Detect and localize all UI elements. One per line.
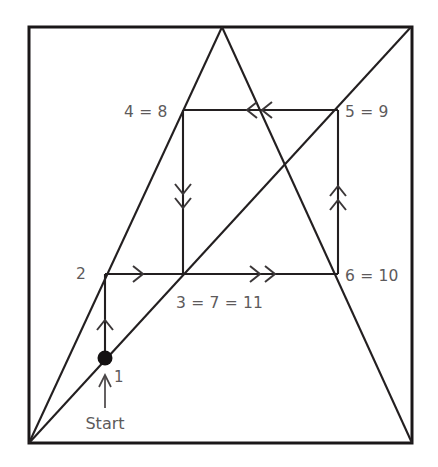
label-point-1: 1 [114,368,124,386]
label-point-3-7-11: 3 = 7 = 11 [176,294,263,312]
figure-root: 4 = 8 5 = 9 6 = 10 3 = 7 = 11 2 1 Start [0,0,438,467]
line-corner-to-apex [29,27,222,443]
label-point-2: 2 [76,265,86,283]
line-apex-to-bottomright [222,27,412,443]
label-point-6-10: 6 = 10 [345,267,399,285]
start-point-marker [98,351,113,366]
line-corner-to-topright [29,27,411,443]
label-point-5-9: 5 = 9 [345,103,389,121]
start-pointer-arrow [99,375,111,408]
label-start: Start [85,414,124,433]
label-point-4-8: 4 = 8 [124,103,168,121]
geometry-diagram: 4 = 8 5 = 9 6 = 10 3 = 7 = 11 2 1 Start [0,0,438,467]
